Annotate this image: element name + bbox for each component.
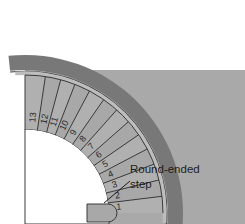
callout-label-line1: Round-ended — [130, 163, 200, 175]
step-number-13: 13 — [27, 112, 38, 123]
staircase-diagram: 12345678910111213 Round-ended step — [0, 0, 245, 224]
round-ended-step — [87, 204, 117, 222]
callout-label-line2: step — [130, 178, 152, 190]
step-number-1: 1 — [116, 201, 122, 211]
staircase-diagram-svg: 12345678910111213 Round-ended step — [0, 0, 245, 224]
step-number-12: 12 — [38, 113, 50, 125]
